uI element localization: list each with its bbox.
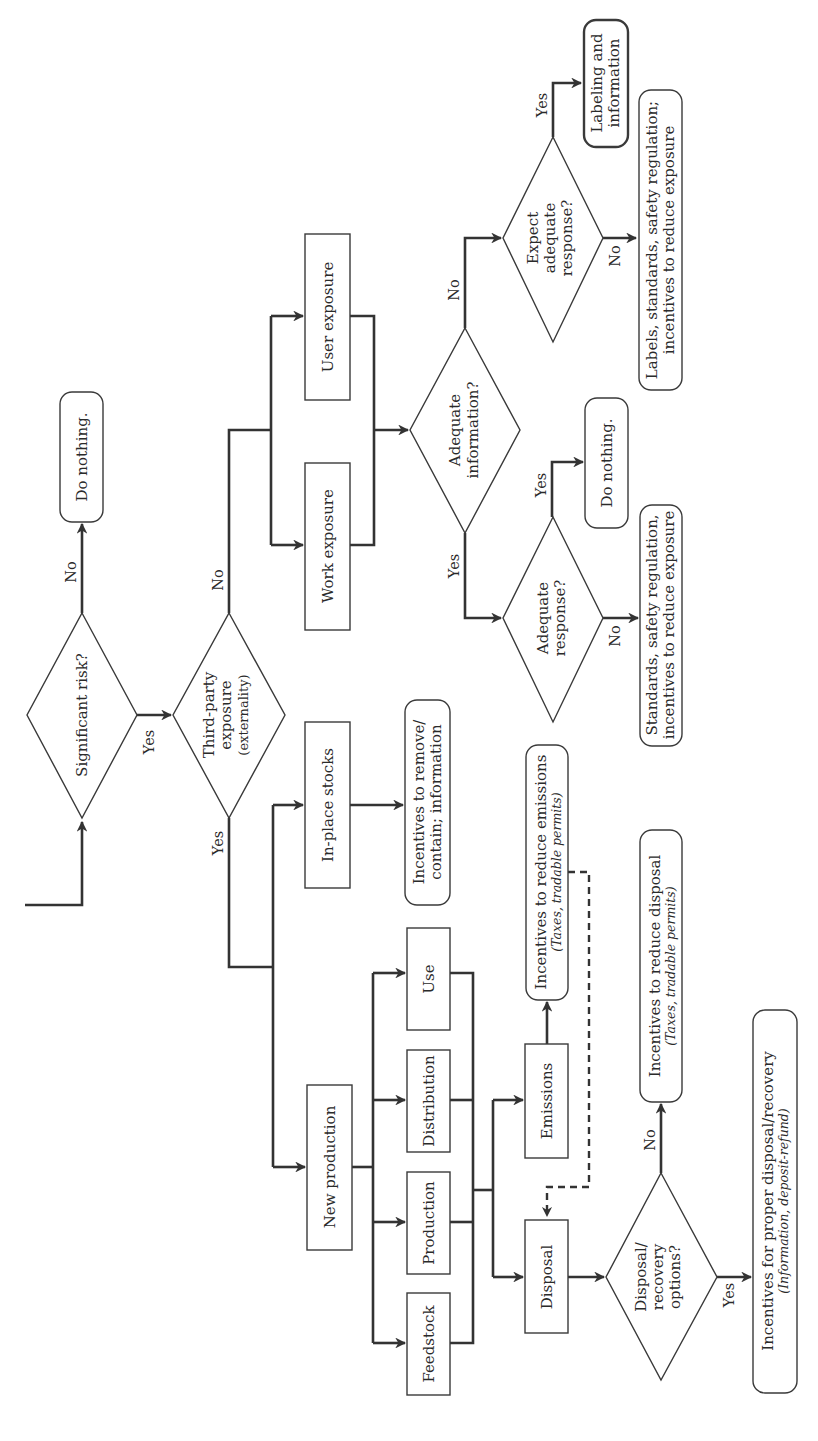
terminal-label-line1: Standards, safety regulation, <box>643 514 661 735</box>
decision-label-line2: recovery <box>649 1243 667 1310</box>
terminal-label-line2: contain; information <box>427 724 445 880</box>
terminal-label-line2: information <box>605 38 623 127</box>
process-label: Distribution <box>420 1055 438 1147</box>
edge-label-tp-no: No <box>210 569 226 590</box>
decision-label-line3: options? <box>666 1245 684 1309</box>
terminal-labeling-information: Labeling and information <box>584 20 628 147</box>
process-new-production: New production <box>307 1085 352 1250</box>
process-label: Production <box>420 1181 438 1265</box>
terminal-label-line2: incentives to reduce exposure <box>660 511 678 740</box>
edge-label-tp-yes: Yes <box>210 831 226 856</box>
decision-label-line1: Expect <box>524 212 542 264</box>
terminal-label: Do nothing. <box>598 418 616 507</box>
edge-label-ai-no: No <box>446 279 462 300</box>
process-label: In-place stocks <box>319 748 337 862</box>
terminal-label-line2: incentives to reduce exposure <box>660 126 678 355</box>
edge-label-ai-yes: Yes <box>446 554 462 579</box>
terminal-label-line1: Incentives to remove/ <box>410 719 428 885</box>
sub-part-2: tradable permits) <box>663 886 678 997</box>
decision-label-line1: Adequate <box>534 582 552 656</box>
decision-label-line1: Third-party <box>200 671 218 758</box>
terminal-label: Do nothing. <box>73 412 91 501</box>
decision-label: Significant risk? <box>73 653 91 777</box>
edge-label-dr-yes: Yes <box>721 1283 737 1308</box>
arrow-ai-yes <box>465 533 501 618</box>
decision-label-line2: information? <box>464 382 482 479</box>
process-user-exposure: User exposure <box>305 234 350 400</box>
edge-label-ar-no: No <box>607 625 623 646</box>
process-label: User exposure <box>319 262 337 373</box>
process-feedstock: Feedstock <box>407 1293 450 1395</box>
decision-label-line1: Adequate <box>446 394 464 468</box>
decision-disposal-recovery-options: Disposal/ recovery options? <box>606 1173 717 1380</box>
decision-expect-adequate-response: Expect adequate response? <box>503 137 603 342</box>
process-label: Disposal <box>538 1245 556 1310</box>
terminal-label-line1: Incentives to reduce emissions <box>532 755 550 990</box>
decision-third-party: Third-party exposure (externality) <box>173 613 285 818</box>
bus-lifecycle-out <box>450 973 473 1343</box>
terminal-incentives-emissions: Incentives to reduce emissions (Taxes, t… <box>526 745 568 1000</box>
process-label: New production <box>321 1105 339 1228</box>
policy-flowchart: Significant risk? Third-party exposure (… <box>0 0 818 1441</box>
edge-label-ear-yes: Yes <box>534 93 550 118</box>
process-use: Use <box>407 928 450 1030</box>
process-label: Work exposure <box>319 489 337 603</box>
terminal-label-line1: Labels, standards, safety regulation; <box>643 101 661 379</box>
edge-label-sr-yes: Yes <box>141 730 157 755</box>
terminal-labels-standards: Labels, standards, safety regulation; in… <box>639 90 682 390</box>
decision-label-line2: exposure <box>217 680 235 749</box>
terminal-label-line1: Incentives for proper disposal/recovery <box>759 1051 777 1351</box>
arrow-tp-no <box>229 430 271 613</box>
decision-label-line2: response? <box>551 580 569 657</box>
process-label: Feedstock <box>420 1305 438 1383</box>
process-work-exposure: Work exposure <box>305 463 350 630</box>
decision-adequate-information: Adequate information? <box>410 328 520 533</box>
start-arrow <box>25 822 82 905</box>
process-disposal: Disposal <box>525 1220 568 1333</box>
terminal-label-line1: Incentives to reduce disposal <box>646 855 664 1078</box>
terminal-sublabel: (Taxes, tradable permits) <box>663 886 678 1045</box>
decision-label-line3: (externality) <box>236 674 251 755</box>
decision-label-line1: Disposal/ <box>632 1241 650 1312</box>
decision-adequate-response: Adequate response? <box>503 517 603 722</box>
process-in-place-stocks: In-place stocks <box>305 722 350 888</box>
process-emissions: Emissions <box>525 1044 568 1158</box>
bus-exposure-out <box>350 316 374 545</box>
terminal-do-nothing-2: Do nothing. <box>585 398 628 528</box>
sub-part-2: tradable permits) <box>549 792 564 903</box>
arrow-tp-yes <box>229 818 273 967</box>
edge-label-sr-no: No <box>63 561 79 582</box>
process-distribution: Distribution <box>407 1050 450 1152</box>
arrow-ar-yes <box>552 462 583 517</box>
terminal-do-nothing-1: Do nothing. <box>60 392 103 522</box>
process-label: Emissions <box>538 1063 556 1140</box>
arrow-ai-no <box>465 238 501 328</box>
decision-label-line3: response? <box>558 200 576 277</box>
edge-label-ear-no: No <box>607 245 623 266</box>
process-production: Production <box>407 1172 450 1274</box>
decision-significant-risk: Significant risk? <box>27 613 137 818</box>
arrow-ear-yes <box>553 83 581 137</box>
sub-part-1: (Taxes, <box>663 997 678 1046</box>
sub-part-1: (Taxes, <box>549 903 564 952</box>
terminal-sublabel: (Information, deposit-refund) <box>776 1108 791 1294</box>
edge-labels: No Yes No Yes No Yes Yes No Yes No No Ye… <box>63 93 737 1308</box>
terminal-sublabel: (Taxes, tradable permits) <box>549 792 564 951</box>
process-label: Use <box>420 964 438 993</box>
edge-label-ar-yes: Yes <box>533 473 549 498</box>
decision-label-line2: adequate <box>541 203 559 274</box>
terminal-incentives-disposal: Incentives to reduce disposal (Taxes, tr… <box>640 830 682 1102</box>
terminal-standards-safety: Standards, safety regulation, incentives… <box>640 505 682 746</box>
terminal-incentives-remove: Incentives to remove/ contain; informati… <box>405 700 450 905</box>
terminal-label-line1: Labeling and <box>588 33 606 133</box>
terminal-incentives-proper: Incentives for proper disposal/recovery … <box>753 1010 797 1393</box>
edge-label-dr-no: No <box>642 1129 658 1150</box>
